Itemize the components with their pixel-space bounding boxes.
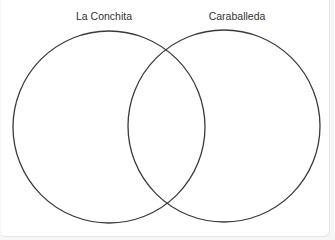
venn-diagram bbox=[0, 0, 335, 240]
venn-circle-right bbox=[128, 30, 320, 222]
venn-circle-left bbox=[13, 31, 205, 223]
